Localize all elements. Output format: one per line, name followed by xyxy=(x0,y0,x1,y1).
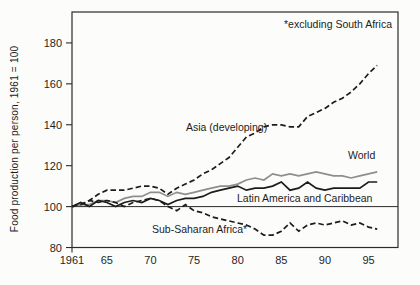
y-axis-title: Food production per person, 1961 = 100 xyxy=(9,46,20,232)
series-label-sub-saharan-africa: Sub-Saharan Africa* xyxy=(152,223,247,235)
x-tick-label: 85 xyxy=(264,254,298,266)
y-tick-label: 180 xyxy=(32,37,62,49)
x-tick-label: 90 xyxy=(308,254,342,266)
x-tick-label: 95 xyxy=(352,254,386,266)
annotation-excluding-south-africa: *excluding South Africa xyxy=(284,18,392,30)
x-tick-label: 80 xyxy=(221,254,255,266)
series-label-world: World xyxy=(348,149,375,161)
x-tick-label: 65 xyxy=(90,254,124,266)
chart-canvas xyxy=(0,0,420,285)
y-tick-label: 100 xyxy=(32,201,62,213)
food-production-chart: Food production per person, 1961 = 100 *… xyxy=(0,0,420,285)
series-label-latin-america: Latin America and Caribbean xyxy=(237,192,372,204)
y-tick-label: 140 xyxy=(32,119,62,131)
y-tick-label: 160 xyxy=(32,78,62,90)
y-tick-label: 80 xyxy=(32,242,62,254)
x-tick-label: 75 xyxy=(177,254,211,266)
x-tick-label: 1961 xyxy=(55,254,89,266)
series-label-asia: Asia (developing) xyxy=(186,121,267,133)
y-tick-label: 120 xyxy=(32,160,62,172)
x-tick-label: 70 xyxy=(133,254,167,266)
